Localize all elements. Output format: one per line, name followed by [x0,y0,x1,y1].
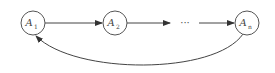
node-an-subscript: n [248,23,252,30]
ellipsis: ··· [180,17,190,28]
node-a1-subscript: 1 [34,23,38,30]
node-a2-label: A [106,17,114,28]
node-a1-label: A [24,17,32,28]
edge-an-a1-curved [36,34,243,65]
node-a2-subscript: 2 [116,23,120,30]
node-a1: A 1 [21,11,45,35]
cycle-diagram: ··· A 1 A 2 A n [0,0,275,73]
node-a2: A 2 [103,11,127,35]
node-an-label: A [238,17,246,28]
node-an: A n [235,11,259,35]
